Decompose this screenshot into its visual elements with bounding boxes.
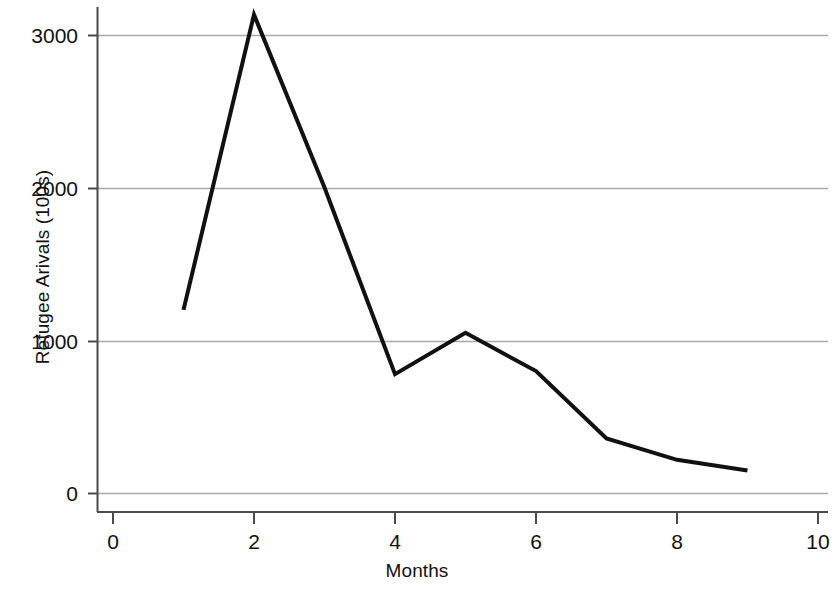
y-axis-title: Refugee Arivals (100s) bbox=[32, 117, 54, 417]
chart-canvas bbox=[0, 0, 834, 592]
x-tick-label-6: 6 bbox=[530, 530, 542, 554]
line-chart: 3000 2000 1000 0 0 2 4 6 8 10 Refugee Ar… bbox=[0, 0, 834, 592]
y-tick-label-3000: 3000 bbox=[0, 24, 78, 48]
x-tick-label-4: 4 bbox=[389, 530, 401, 554]
x-tick-label-0: 0 bbox=[107, 530, 119, 554]
axis-spines bbox=[97, 7, 828, 512]
x-tick-label-2: 2 bbox=[248, 530, 260, 554]
x-axis-ticks bbox=[113, 512, 818, 524]
data-line-refugee-arrivals bbox=[184, 15, 748, 471]
gridlines bbox=[97, 36, 828, 494]
x-axis-title: Months bbox=[0, 560, 834, 582]
y-tick-label-0: 0 bbox=[0, 482, 78, 506]
x-tick-label-8: 8 bbox=[671, 530, 683, 554]
x-tick-label-10: 10 bbox=[806, 530, 829, 554]
y-axis-ticks bbox=[88, 36, 97, 494]
